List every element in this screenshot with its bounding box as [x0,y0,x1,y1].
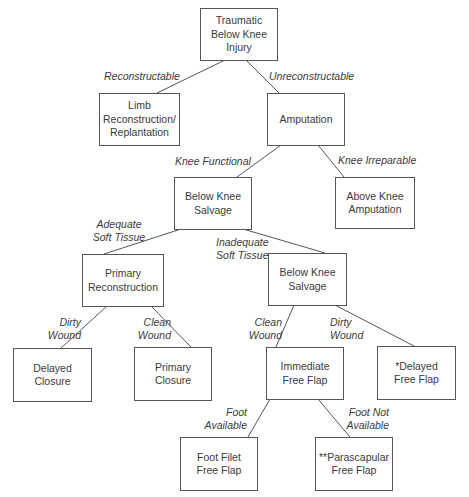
node-primary-closure: Primary Closure [134,347,212,401]
edge-label-clean-wound-2: Clean Wound [237,316,282,342]
node-above-knee-amputation: Above Knee Amputation [335,177,415,229]
node-label: Foot Filet Free Flap [197,451,242,478]
edge-label-knee-functional: Knee Functional [175,155,251,168]
edge-label-foot-available: Foot Available [200,406,247,432]
edge-label-reconstructable: Reconstructable [104,70,180,83]
edge-label-dirty-wound-2: Dirty Wound [330,316,363,342]
edge-label-foot-not-available: Foot Not Available [336,406,389,432]
edge-label-knee-irreparable: Knee Irreparable [338,154,416,167]
node-traumatic-injury: Traumatic Below Knee Injury [200,8,278,61]
node-primary-reconstruction: Primary Reconstruction [82,254,164,307]
node-label: **Parascapular Free Flap [319,451,389,478]
node-label: Primary Closure [155,361,191,388]
edge-label-adequate-soft-tissue: Adequate Soft Tissue [92,218,146,244]
node-label: Primary Reconstruction [88,267,158,294]
node-below-knee-salvage-1: Below Knee Salvage [174,177,252,230]
node-label: Immediate Free Flap [280,360,329,387]
node-label: Above Knee Amputation [346,190,403,217]
node-below-knee-salvage-2: Below Knee Salvage [268,253,347,306]
node-label: *Delayed Free Flap [394,360,439,387]
edge-label-unreconstructable: Unreconstructable [269,70,354,83]
node-delayed-free-flap: *Delayed Free Flap [377,346,456,400]
node-amputation: Amputation [267,93,345,146]
node-label: Amputation [279,113,332,127]
node-label: Below Knee Salvage [279,266,335,293]
edge-label-dirty-wound-1: Dirty Wound [30,316,81,342]
node-label: Delayed Closure [33,362,72,389]
node-limb-reconstruction: Limb Reconstruction/ Replantation [99,93,180,146]
node-delayed-closure: Delayed Closure [13,348,92,402]
node-label: Traumatic Below Knee Injury [211,14,267,55]
node-foot-filet-free-flap: Foot Filet Free Flap [180,437,258,491]
edge-label-inadequate-soft-tissue: Inadequate Soft Tissue [216,236,269,262]
node-label: Below Knee Salvage [185,190,241,217]
edge-label-clean-wound-1: Clean Wound [126,316,171,342]
node-label: Limb Reconstruction/ Replantation [103,99,176,140]
node-parascapular-free-flap: **Parascapular Free Flap [315,437,393,491]
node-immediate-free-flap: Immediate Free Flap [266,347,344,400]
